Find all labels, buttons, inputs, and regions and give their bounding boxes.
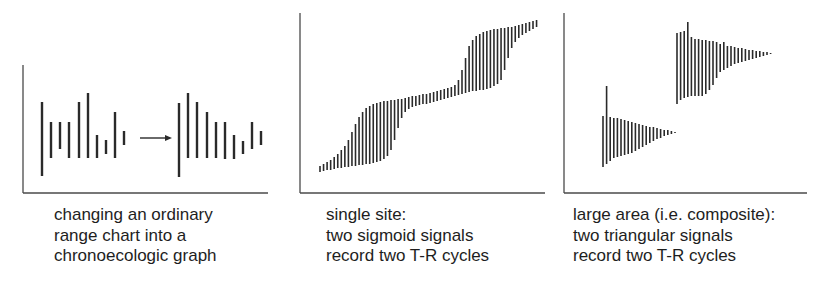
caption-line: single site: [326, 205, 489, 226]
arrow-head-icon [165, 135, 172, 141]
panel-large-area-triangular [564, 13, 807, 193]
caption-line: record two T-R cycles [326, 246, 489, 267]
caption-panel-2: single site: two sigmoid signals record … [326, 205, 489, 267]
caption-line: two triangular signals [573, 226, 775, 247]
caption-panel-3: large area (i.e. composite): two triangu… [573, 205, 775, 267]
panel-single-site-sigmoid [300, 13, 545, 193]
caption-line: range chart into a [54, 226, 217, 247]
caption-panel-1: changing an ordinary range chart into a … [54, 205, 217, 267]
caption-line: changing an ordinary [54, 205, 217, 226]
caption-line: record two T-R cycles [573, 246, 775, 267]
caption-line: chronoecologic graph [54, 246, 217, 267]
panel-ordinary-to-chronoecologic [23, 65, 268, 193]
caption-line: large area (i.e. composite): [573, 205, 775, 226]
caption-line: two sigmoid signals [326, 226, 489, 247]
